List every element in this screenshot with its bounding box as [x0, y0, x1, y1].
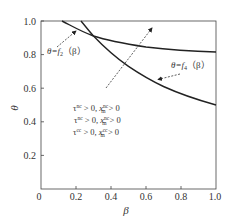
condition-line: τnc > 0, xncm > 0 [74, 115, 121, 126]
f2-pointer-arrow [57, 31, 76, 47]
y-tick-label: 0.6 [24, 83, 37, 94]
x-axis [76, 186, 181, 189]
condition-line: τnc > 0, xncm > 0 [73, 103, 120, 114]
y-tick-label: 0.2 [24, 150, 37, 161]
f4-pointer-arrow [158, 74, 180, 80]
x-tick-label: 0.4 [105, 191, 118, 202]
f4-label: θ=f4（β） [171, 60, 210, 71]
x-tick-label: 0 [37, 191, 42, 202]
y-tick-label: 0.4 [24, 116, 37, 127]
x-tick-label: 1.0 [209, 191, 222, 202]
direction-arrow [106, 28, 152, 88]
chart: 1.0 0.8 0.6 0.4 0.2 0 0.2 0.4 0.6 0.8 1.… [0, 0, 231, 223]
x-axis-label: β [122, 204, 129, 216]
y-axis [41, 21, 44, 155]
x-tick-label: 0.6 [140, 191, 153, 202]
region-conditions: τnc > 0, xncm > 0 τnc > 0, xncm > 0 τcc … [73, 103, 121, 138]
y-tick-label: 0.8 [24, 49, 37, 60]
f2-label: θ=f2（β） [47, 46, 86, 57]
x-tick-label: 0.2 [70, 191, 83, 202]
y-tick-label: 1.0 [24, 16, 37, 27]
condition-line: τcc > 0, xccm > 0 [73, 127, 119, 138]
y-axis-label: θ [8, 105, 20, 111]
x-tick-label: 0.8 [175, 191, 188, 202]
